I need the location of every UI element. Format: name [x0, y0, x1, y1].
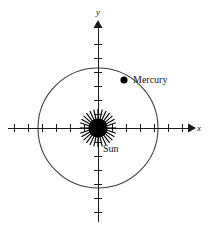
mercury-marker — [120, 76, 127, 83]
diagram-canvas: x y Mercury Sun — [0, 0, 212, 229]
y-axis-label: y — [95, 7, 100, 17]
sun-label: Sun — [103, 143, 119, 154]
mercury-label: Mercury — [133, 74, 167, 85]
sun-marker — [88, 118, 107, 137]
x-axis-arrow-icon — [188, 124, 196, 133]
orbit-diagram: x y Mercury Sun — [0, 0, 212, 229]
y-axis-arrow-icon — [94, 20, 103, 28]
x-axis-label: x — [196, 123, 201, 133]
